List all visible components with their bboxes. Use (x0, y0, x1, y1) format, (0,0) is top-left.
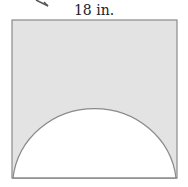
diagram-canvas (0, 0, 188, 187)
dimension-label: 18 in. (0, 2, 188, 18)
